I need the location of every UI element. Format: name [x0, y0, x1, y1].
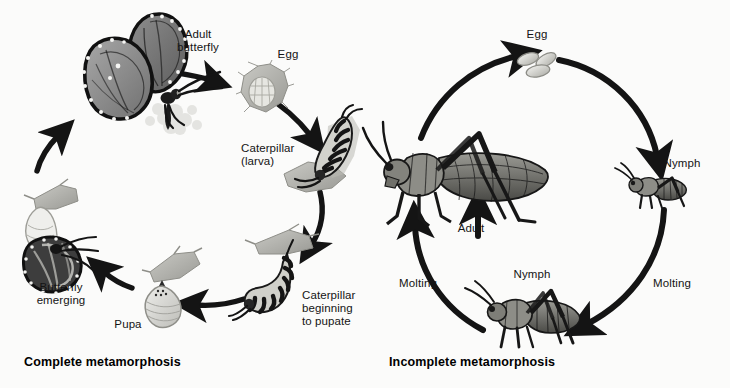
stage-label-caterpillar-pupating: Caterpillar beginning to pupate	[302, 289, 372, 329]
grasshopper-adult-icon	[373, 128, 563, 234]
grasshopper-nymph-large-icon	[481, 283, 589, 355]
incomplete-metamorphosis-panel: Egg Nymph Nymph Adult Molting Molting In…	[365, 0, 730, 388]
stage-label-butterfly-emerging: Butterfly emerging	[28, 281, 94, 307]
panel-title-incomplete: Incomplete metamorphosis	[389, 355, 555, 369]
transition-label-molting-right: Molting	[643, 277, 701, 290]
butterfly-egg-icon	[236, 62, 294, 116]
stage-label-egg: Egg	[266, 48, 310, 61]
stage-label-nymph-early: Nymph	[653, 157, 711, 170]
metamorphosis-figure: Adult butterfly Egg Caterpillar (larva) …	[0, 0, 730, 388]
stage-label-caterpillar-larva: Caterpillar (larva)	[241, 142, 319, 168]
complete-metamorphosis-panel: Adult butterfly Egg Caterpillar (larva) …	[0, 0, 365, 388]
transition-label-molting-left: Molting	[389, 277, 447, 290]
panel-title-complete: Complete metamorphosis	[24, 355, 181, 369]
stage-label-adult: Adult	[447, 222, 495, 235]
stage-label-egg: Egg	[511, 28, 563, 41]
stage-label-pupa: Pupa	[106, 318, 150, 331]
grasshopper-nymph-small-icon	[624, 166, 696, 216]
grasshopper-eggs-icon	[513, 48, 565, 82]
stage-label-nymph-late: Nymph	[503, 268, 561, 281]
stage-label-adult-butterfly: Adult butterfly	[163, 28, 233, 54]
butterfly-icon	[72, 6, 232, 136]
